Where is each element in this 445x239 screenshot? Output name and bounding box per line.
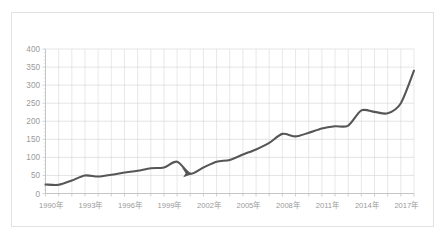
- y-tick-label-200: 200: [26, 117, 40, 126]
- x-tick-label-1996: 1996年: [118, 200, 143, 210]
- line-chart: 050100150200250300350400 1990年1993年1996年…: [0, 0, 445, 239]
- y-tick-label-350: 350: [26, 63, 40, 72]
- x-tick-label-2017: 2017年: [394, 200, 419, 210]
- y-tick-label-400: 400: [26, 45, 40, 54]
- x-axis-tick-labels: 1990年1993年1996年1999年2002年2005年2008年2011年…: [39, 200, 419, 210]
- x-tick-label-1993: 1993年: [79, 200, 104, 210]
- x-tick-label-1999: 1999年: [157, 200, 182, 210]
- y-tick-label-50: 50: [31, 171, 41, 180]
- y-tick-label-250: 250: [26, 99, 40, 108]
- x-tick-label-1990: 1990年: [39, 200, 64, 210]
- x-tick-label-2002: 2002年: [197, 200, 222, 210]
- y-axis-tick-labels: 050100150200250300350400: [26, 45, 40, 199]
- x-tick-label-2014: 2014年: [355, 200, 380, 210]
- y-tick-label-100: 100: [26, 153, 40, 162]
- x-tick-label-2011: 2011年: [316, 200, 340, 210]
- y-tick-label-150: 150: [26, 135, 40, 144]
- x-tick-label-2005: 2005年: [236, 200, 261, 210]
- x-axis-tick-marks: [46, 194, 415, 197]
- y-tick-label-300: 300: [26, 81, 40, 90]
- y-tick-label-0: 0: [35, 190, 40, 199]
- x-tick-label-2008: 2008年: [276, 200, 301, 210]
- chart-figure: 050100150200250300350400 1990年1993年1996年…: [0, 0, 445, 239]
